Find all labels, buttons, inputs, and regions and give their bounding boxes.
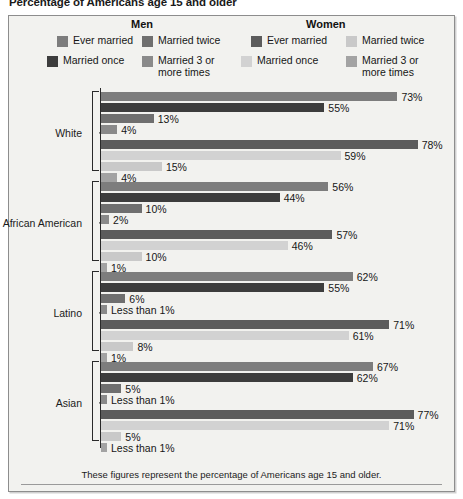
bar-value-label: 59% <box>341 150 366 162</box>
chart-group-latino: Latino 62%55%6%Less than 1%71%61%8%1% <box>9 268 454 358</box>
category-label: Asian <box>56 397 82 409</box>
legend-swatch-icon <box>241 56 252 67</box>
bar-value-label: 46% <box>288 240 313 252</box>
bar-row: Less than 1% <box>101 443 107 452</box>
bar-row: 78% <box>101 140 418 149</box>
bar-value-label: 71% <box>389 420 414 432</box>
bar <box>101 241 288 250</box>
legend-item-men-married-twice: Married twice <box>142 35 220 47</box>
category-bracket <box>92 271 99 351</box>
chart-footnote: These figures represent the percentage o… <box>9 469 454 480</box>
bar-row: 59% <box>101 151 341 160</box>
bar <box>101 384 121 393</box>
bar-row: 61% <box>101 331 349 340</box>
bar <box>101 283 324 292</box>
bar-value-label: 4% <box>117 124 136 136</box>
bar <box>101 410 414 419</box>
legend-item-women-ever-married: Ever married <box>251 35 327 47</box>
legend-item-women-married-twice: Married twice <box>346 35 424 47</box>
bar-row: 8% <box>101 342 133 351</box>
bar-value-label: 13% <box>154 113 179 125</box>
bar <box>101 204 142 213</box>
bar-row: 4% <box>101 125 117 134</box>
legend-item-men-ever-married: Ever married <box>57 35 133 47</box>
legend-item-men-married-3-or-more: Married 3 ormore times <box>142 55 215 78</box>
legend-item-label: Ever married <box>73 35 133 47</box>
chart-title: Percentage of Americans age 15 and older <box>9 0 237 8</box>
chart-panel: Men Women Ever married Married twice Mar… <box>8 15 455 492</box>
chart-legend: Men Women Ever married Married twice Mar… <box>9 16 454 88</box>
bar <box>101 294 125 303</box>
bar <box>101 272 353 281</box>
legend-item-label: Married 3 ormore times <box>362 55 419 78</box>
bar <box>101 103 324 112</box>
bar <box>101 342 133 351</box>
bar <box>101 92 397 101</box>
chart-group-white: White 73%55%13%4%78%59%15%4% <box>9 88 454 178</box>
legend-item-women-married-once: Married once <box>241 55 318 67</box>
bar <box>101 252 142 261</box>
footnote-rule <box>21 484 442 485</box>
legend-swatch-icon <box>57 36 68 47</box>
bar <box>101 331 349 340</box>
category-bracket <box>92 361 99 441</box>
bar-value-label: 10% <box>142 203 167 215</box>
bar <box>101 421 389 430</box>
bar-row: 62% <box>101 373 353 382</box>
bar-value-label: 56% <box>328 181 353 193</box>
chart-group-asian: Asian 67%62%5%Less than 1%77%71%5%Less t… <box>9 358 454 448</box>
legend-item-men-married-once: Married once <box>47 55 124 67</box>
bar-value-label: Less than 1% <box>107 442 175 454</box>
bar <box>101 230 332 239</box>
bar-row: 73% <box>101 92 397 101</box>
bar-row: 10% <box>101 252 142 261</box>
bar-value-label: 10% <box>142 251 167 263</box>
bar-row: 15% <box>101 162 162 171</box>
bar-value-label: 62% <box>353 271 378 283</box>
bar-value-label: 62% <box>353 372 378 384</box>
legend-swatch-icon <box>346 56 357 67</box>
bar-value-label: Less than 1% <box>107 394 175 406</box>
bar <box>101 215 109 224</box>
bar <box>101 140 418 149</box>
bar <box>101 362 373 371</box>
bar <box>101 193 280 202</box>
bar <box>101 432 121 441</box>
bar-row: 71% <box>101 421 389 430</box>
bar-value-label: 57% <box>332 229 357 241</box>
bar-row: 5% <box>101 432 121 441</box>
legend-swatch-icon <box>142 36 153 47</box>
bar-row: 44% <box>101 193 280 202</box>
bar <box>101 114 154 123</box>
bar <box>101 125 117 134</box>
bar <box>101 320 389 329</box>
bar-row: 77% <box>101 410 414 419</box>
chart-plot-area: White 73%55%13%4%78%59%15%4% African Ame… <box>9 88 454 460</box>
chart-group-african-american: African American 56%44%10%2%57%46%10%1% <box>9 178 454 268</box>
legend-swatch-icon <box>251 36 262 47</box>
bar-row: 62% <box>101 272 353 281</box>
legend-item-label: Married twice <box>362 35 424 47</box>
legend-item-label: Married once <box>257 55 318 67</box>
bar-row: Less than 1% <box>101 305 107 314</box>
bar-row: 6% <box>101 294 125 303</box>
legend-heading-men: Men <box>131 18 153 30</box>
category-bracket <box>92 181 99 261</box>
bar-value-label: 78% <box>418 139 443 151</box>
bar-row: 71% <box>101 320 389 329</box>
legend-item-women-married-3-or-more: Married 3 ormore times <box>346 55 419 78</box>
legend-item-label: Married once <box>63 55 124 67</box>
bar-row: 13% <box>101 114 154 123</box>
category-bracket <box>92 91 99 171</box>
bar-row: 46% <box>101 241 288 250</box>
bar-value-label: Less than 1% <box>107 304 175 316</box>
bar-row: 5% <box>101 384 121 393</box>
bar <box>101 373 353 382</box>
bar-row: 67% <box>101 362 373 371</box>
bar-value-label: 77% <box>414 409 439 421</box>
bar-row: 2% <box>101 215 109 224</box>
legend-heading-women: Women <box>306 18 346 30</box>
category-label: African American <box>3 217 82 229</box>
bar-value-label: 55% <box>324 282 349 294</box>
legend-swatch-icon <box>142 56 153 67</box>
